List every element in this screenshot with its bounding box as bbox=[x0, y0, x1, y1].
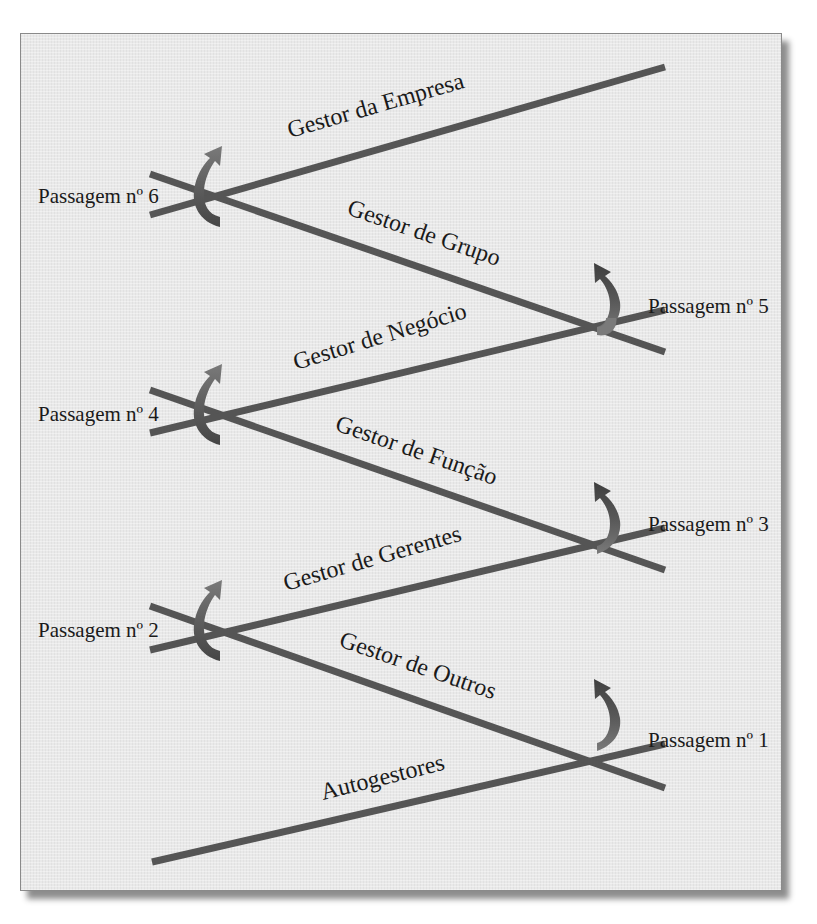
passage-label-2: Passagem nº 2 bbox=[38, 618, 159, 642]
passage-label-3: Passagem nº 3 bbox=[648, 512, 769, 536]
leadership-pipeline-diagram: Gestor da Empresa Gestor de Grupo Gestor… bbox=[0, 0, 817, 924]
passage-label-4: Passagem nº 4 bbox=[38, 402, 159, 426]
level-label-gestor-de-outros: Gestor de Outros bbox=[336, 626, 500, 704]
passage-label-1: Passagem nº 1 bbox=[648, 728, 769, 752]
passage-label-5: Passagem nº 5 bbox=[648, 294, 769, 318]
passage-arrow-1 bbox=[594, 679, 620, 751]
level-label-gestor-de-funcao: Gestor de Função bbox=[332, 410, 501, 490]
level-label-gestor-de-grupo: Gestor de Grupo bbox=[344, 194, 504, 271]
passage-arrow-6 bbox=[194, 146, 222, 227]
passage-arrow-4 bbox=[194, 364, 222, 445]
passage-arrow-2 bbox=[194, 580, 222, 661]
passage-label-6: Passagem nº 6 bbox=[38, 184, 159, 208]
